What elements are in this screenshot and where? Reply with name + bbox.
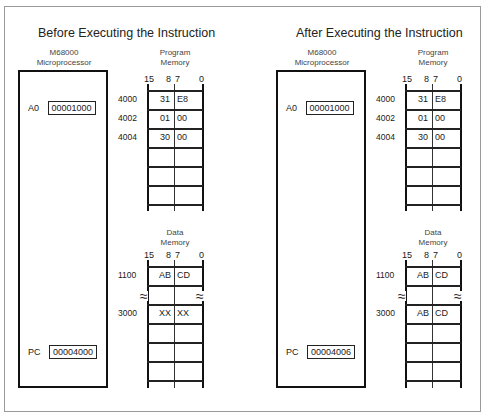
microprocessor-box	[276, 70, 366, 388]
memory-high-byte: 30	[160, 132, 170, 142]
memory-row-line	[147, 204, 203, 206]
pc-label: PC	[286, 347, 299, 357]
memory-high-byte: 30	[418, 132, 428, 142]
bit-7: 7	[433, 74, 438, 84]
memory-row-line	[405, 285, 461, 287]
program-memory-label: ProgramMemory	[403, 48, 463, 68]
memory-address: 3000	[118, 308, 137, 318]
memory-high-byte: 01	[160, 113, 170, 123]
cpu-label: M68000Microprocessor	[20, 48, 108, 68]
bit-15: 15	[402, 250, 412, 260]
panel-title: After Executing the Instruction	[296, 26, 463, 40]
memory-high-byte: XX	[159, 308, 171, 318]
memory-row-line	[147, 285, 203, 287]
memory-row-line	[147, 90, 203, 92]
panel-before: Before Executing the Instruction M68000M…	[0, 0, 240, 419]
bit-8: 8	[424, 74, 429, 84]
memory-row-line	[405, 304, 461, 306]
memory-low-byte: E8	[435, 94, 446, 104]
bit-7: 7	[433, 250, 438, 260]
panel-title: Before Executing the Instruction	[38, 26, 215, 40]
bit-7: 7	[175, 74, 180, 84]
memory-high-byte: 31	[418, 94, 428, 104]
memory-row-line	[147, 185, 203, 187]
bit-15: 15	[402, 74, 412, 84]
memory-low-byte: 00	[177, 132, 187, 142]
memory-address: 4000	[376, 94, 395, 104]
memory-row-line	[405, 147, 461, 149]
memory-high-byte: 01	[418, 113, 428, 123]
memory-row-line	[405, 323, 461, 325]
a0-register: A0 00001000	[286, 101, 354, 115]
memory-address: 4002	[376, 113, 395, 123]
memory-address: 1100	[376, 270, 394, 280]
pc-value: 00004000	[49, 345, 97, 359]
memory-row-line	[405, 166, 461, 168]
microprocessor-box	[18, 70, 108, 388]
memory-row-line	[405, 204, 461, 206]
memory-low-byte: 00	[177, 113, 187, 123]
memory-low-byte: XX	[177, 308, 189, 318]
memory-high-byte: AB	[417, 270, 429, 280]
memory-address: 4002	[118, 113, 137, 123]
pc-register: PC 00004006	[286, 345, 355, 359]
bit-15: 15	[144, 74, 154, 84]
program-memory-label: ProgramMemory	[145, 48, 205, 68]
memory-row-line	[405, 90, 461, 92]
bit-8: 8	[424, 250, 429, 260]
memory-row-line	[405, 342, 461, 344]
memory-row-line	[147, 266, 203, 268]
memory-low-byte: CD	[435, 270, 448, 280]
cpu-label: M68000Microprocessor	[278, 48, 366, 68]
break-mark-right: ≈	[454, 291, 462, 301]
bit-8: 8	[166, 74, 171, 84]
memory-row-line	[405, 109, 461, 111]
memory-low-byte: 00	[435, 113, 445, 123]
a0-value: 00001000	[306, 101, 354, 115]
memory-low-byte: E8	[177, 94, 188, 104]
memory-row-line	[405, 361, 461, 363]
bit-7: 7	[175, 250, 180, 260]
bit-8: 8	[166, 250, 171, 260]
memory-low-byte: CD	[435, 308, 448, 318]
memory-low-byte: 00	[435, 132, 445, 142]
memory-row-line	[405, 266, 461, 268]
bit-0: 0	[457, 74, 462, 84]
bit-0: 0	[199, 74, 204, 84]
memory-address: 4004	[118, 132, 137, 142]
bit-15: 15	[144, 250, 154, 260]
memory-address: 4004	[376, 132, 395, 142]
memory-row-line	[147, 166, 203, 168]
break-mark-left: ≈	[398, 291, 406, 301]
panel-after: After Executing the Instruction M68000Mi…	[258, 0, 487, 419]
bit-0: 0	[199, 250, 204, 260]
a0-value: 00001000	[48, 101, 96, 115]
break-mark-right: ≈	[196, 291, 204, 301]
memory-high-byte: AB	[159, 270, 171, 280]
memory-row-line	[405, 185, 461, 187]
memory-row-line	[147, 128, 203, 130]
data-memory-label: DataMemory	[403, 228, 463, 248]
memory-row-line	[147, 342, 203, 344]
memory-high-byte: 31	[160, 94, 170, 104]
pc-value: 00004006	[307, 345, 355, 359]
memory-row-line	[147, 380, 203, 382]
memory-row-line	[147, 323, 203, 325]
pc-label: PC	[28, 347, 41, 357]
memory-row-line	[147, 109, 203, 111]
memory-row-line	[405, 128, 461, 130]
memory-address: 4000	[118, 94, 137, 104]
memory-row-line	[147, 304, 203, 306]
memory-row-line	[405, 380, 461, 382]
memory-address: 1100	[118, 270, 136, 280]
bit-0: 0	[457, 250, 462, 260]
a0-label: A0	[28, 103, 39, 113]
memory-high-byte: AB	[417, 308, 429, 318]
data-memory-label: DataMemory	[145, 228, 205, 248]
memory-row-line	[147, 147, 203, 149]
a0-label: A0	[286, 103, 297, 113]
break-mark-left: ≈	[140, 291, 148, 301]
memory-low-byte: CD	[177, 270, 190, 280]
a0-register: A0 00001000	[28, 101, 96, 115]
memory-address: 3000	[376, 308, 395, 318]
